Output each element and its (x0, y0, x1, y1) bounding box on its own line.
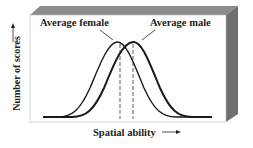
distribution-figure: Average female Average male Spatial abil… (0, 0, 253, 148)
box-top-face (30, 6, 238, 15)
x-axis-label-text: Spatial ability (93, 127, 156, 138)
average-female-label: Average female (40, 17, 109, 28)
box-side-face (226, 6, 238, 122)
y-axis-label-text: Number of scores (11, 36, 22, 111)
x-axis-arrowhead-icon (176, 130, 181, 134)
box-front-face (30, 15, 226, 122)
average-male-label: Average male (150, 17, 211, 28)
y-axis-label: Number of scores (11, 24, 22, 124)
chart-canvas (0, 0, 253, 148)
x-axis-label: Spatial ability (93, 127, 156, 138)
